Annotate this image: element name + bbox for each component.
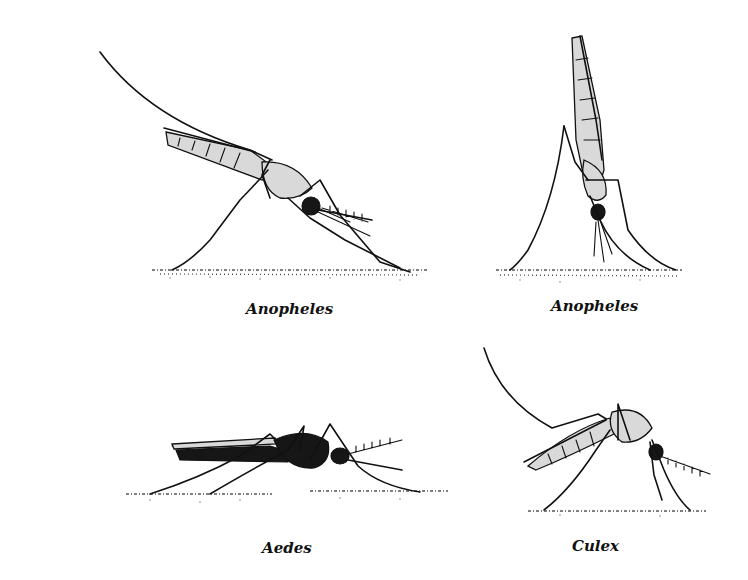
caption-anopheles-side: Anopheles bbox=[246, 300, 333, 318]
anopheles-vertical-illustration bbox=[496, 36, 682, 276]
caption-anopheles-vertical: Anopheles bbox=[551, 297, 638, 315]
caption-culex: Culex bbox=[572, 537, 619, 555]
mosquito-illustrations bbox=[0, 0, 748, 580]
culex-illustration bbox=[484, 348, 710, 511]
anopheles-side-illustration bbox=[100, 52, 428, 275]
caption-aedes: Aedes bbox=[262, 539, 312, 557]
aedes-illustration bbox=[126, 424, 448, 494]
